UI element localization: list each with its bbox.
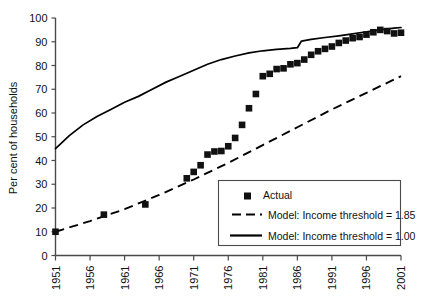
data-marker (370, 29, 377, 36)
y-tick-label: 90 (35, 36, 47, 48)
chart-canvas: Per cent of households 01020304050607080… (0, 0, 430, 304)
chart-legend: Actual Model: Income threshold = 1.85 Mo… (219, 181, 416, 246)
data-marker (377, 27, 384, 34)
legend-label-threshold-100: Model: Income threshold = 1.00 (268, 230, 416, 242)
data-marker (225, 143, 232, 150)
data-marker (280, 65, 287, 72)
x-tick-label: 1956 (84, 266, 96, 290)
x-tick-label: 1976 (222, 266, 234, 290)
legend-label-threshold-185: Model: Income threshold = 1.85 (268, 209, 416, 221)
data-marker (246, 105, 253, 112)
y-axis-title: Per cent of households (7, 81, 19, 194)
data-marker (253, 91, 260, 98)
y-tick-label: 20 (35, 202, 47, 214)
data-marker (273, 66, 280, 73)
data-marker (183, 175, 190, 182)
chart-figure: Per cent of households 01020304050607080… (0, 0, 430, 304)
x-tick-label: 1966 (153, 266, 165, 290)
data-marker (363, 31, 370, 38)
x-tick-label: 1971 (188, 266, 200, 290)
data-marker (384, 28, 391, 35)
data-marker (356, 34, 363, 41)
data-marker (260, 73, 267, 80)
x-tick-label: 1986 (291, 266, 303, 290)
data-marker (294, 60, 301, 67)
data-marker (197, 162, 204, 169)
y-tick-label: 10 (35, 226, 47, 238)
data-marker (322, 46, 329, 53)
data-marker (329, 43, 336, 50)
data-marker (398, 29, 405, 36)
data-marker (266, 71, 273, 78)
legend-swatch-actual (244, 193, 251, 200)
data-marker (315, 48, 322, 55)
x-tick-label: 1961 (119, 266, 131, 290)
y-tick-label: 40 (35, 155, 47, 167)
data-marker (301, 56, 308, 63)
data-marker (239, 122, 246, 129)
x-tick-label: 1996 (360, 266, 372, 290)
y-tick-label: 80 (35, 60, 47, 72)
y-tick-label: 0 (41, 250, 47, 262)
y-tick-label: 70 (35, 83, 47, 95)
x-tick-label: 1951 (50, 266, 62, 290)
data-marker (336, 40, 343, 47)
x-tick-label: 1991 (326, 266, 338, 290)
data-marker (308, 52, 315, 59)
data-marker (287, 61, 294, 68)
y-tick-label: 30 (35, 178, 47, 190)
y-tick-label: 100 (29, 12, 47, 24)
y-tick-label: 50 (35, 131, 47, 143)
data-marker (232, 135, 239, 142)
data-marker (211, 148, 218, 155)
data-marker (190, 169, 197, 176)
data-marker (391, 30, 398, 37)
legend-label-actual: Actual (263, 189, 292, 201)
x-tick-label: 2001 (395, 266, 407, 290)
data-marker (349, 35, 356, 42)
x-tick-label: 1981 (257, 266, 269, 290)
data-marker (142, 201, 149, 208)
data-marker (52, 228, 59, 235)
data-marker (218, 148, 225, 155)
data-marker (101, 211, 108, 218)
data-marker (342, 37, 349, 44)
data-marker (204, 151, 211, 158)
y-tick-label: 60 (35, 107, 47, 119)
